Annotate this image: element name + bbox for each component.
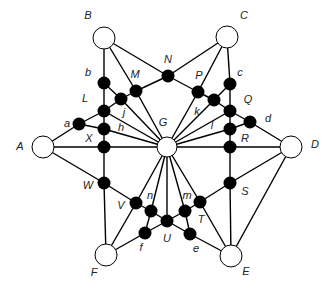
junction-node-h [98, 123, 111, 136]
graph-diagram: ABCDEFGNMPbjLahXWckQdlRSVnUfmTe [0, 0, 333, 288]
junction-node-e [184, 228, 197, 241]
junction-node-R [224, 141, 237, 154]
node-label-V: V [117, 199, 126, 211]
node-label-U: U [163, 232, 171, 244]
junction-node-V [130, 197, 143, 210]
node-label-n: n [147, 189, 153, 201]
node-label-P: P [195, 69, 203, 81]
node-label-Q: Q [244, 93, 253, 105]
junction-node-n [145, 205, 158, 218]
junction-node-T [194, 196, 207, 209]
node-label-N: N [164, 53, 172, 65]
junction-node-m [179, 205, 192, 218]
junction-node-d [244, 116, 257, 129]
junction-node-c [224, 78, 237, 91]
node-label-d: d [265, 112, 272, 124]
node-label-k: k [194, 105, 200, 117]
junction-node-U [161, 215, 174, 228]
hub-node-F [95, 244, 117, 266]
node-label-h: h [118, 121, 124, 133]
node-label-F: F [91, 266, 99, 278]
node-label-a: a [64, 117, 70, 129]
node-label-R: R [241, 132, 249, 144]
node-label-G: G [159, 116, 168, 128]
junction-node-a [73, 118, 86, 131]
node-label-L: L [82, 92, 88, 104]
hub-node-C [216, 26, 238, 48]
node-label-E: E [242, 265, 250, 277]
hub-node-B [93, 27, 115, 49]
junction-node-j [115, 93, 128, 106]
junction-node-X [98, 141, 111, 154]
junction-node-f [139, 227, 152, 240]
node-label-X: X [84, 132, 93, 144]
junction-node-l [224, 123, 237, 136]
node-label-B: B [84, 9, 91, 21]
junction-node-S [224, 177, 237, 190]
edge-D-E [231, 147, 291, 256]
junction-node-M [130, 85, 143, 98]
node-label-T: T [198, 213, 206, 225]
node-label-C: C [240, 9, 248, 21]
hub-node-G [157, 137, 177, 157]
hub-node-E [220, 245, 242, 267]
hub-node-D [280, 136, 302, 158]
node-label-D: D [311, 138, 319, 150]
junction-node-Q [224, 105, 237, 118]
junction-node-P [192, 86, 205, 99]
node-label-S: S [241, 185, 249, 197]
node-label-e: e [193, 242, 199, 254]
junction-node-k [208, 94, 221, 107]
node-label-A: A [15, 140, 23, 152]
junction-node-L [98, 105, 111, 118]
node-label-b: b [85, 66, 91, 78]
junction-node-N [162, 70, 175, 83]
node-label-M: M [130, 68, 140, 80]
node-label-c: c [237, 66, 243, 78]
hub-node-A [32, 136, 54, 158]
junction-node-b [98, 77, 111, 90]
node-label-f: f [139, 241, 143, 253]
node-label-m: m [182, 189, 191, 201]
node-label-W: W [83, 179, 95, 191]
junction-node-W [98, 177, 111, 190]
node-label-j: j [121, 106, 126, 118]
